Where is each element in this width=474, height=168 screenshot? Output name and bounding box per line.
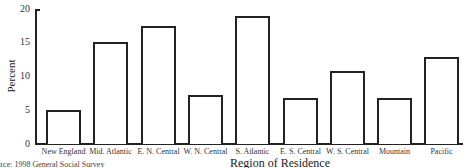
bar bbox=[141, 26, 176, 144]
bar bbox=[235, 16, 270, 144]
bar bbox=[46, 110, 81, 144]
x-tick-label: S. Atlantic bbox=[225, 147, 280, 156]
y-axis bbox=[35, 9, 37, 145]
y-tick-label-15: 15 bbox=[14, 37, 30, 47]
y-tick-label-0: 0 bbox=[14, 139, 30, 149]
bar bbox=[424, 57, 459, 144]
x-axis-label: Region of Residence bbox=[190, 156, 370, 168]
bar bbox=[188, 95, 223, 144]
bar bbox=[377, 98, 412, 144]
bar bbox=[283, 98, 318, 144]
x-tick-label: Pacific bbox=[414, 147, 469, 156]
source-note: Source: 1998 General Social Survey bbox=[0, 160, 104, 168]
y-tick-label-20: 20 bbox=[14, 4, 30, 14]
bar-chart: Percent 0 5 10 15 20 New EnglandMid. Atl… bbox=[0, 0, 474, 168]
y-tick-label-10: 10 bbox=[14, 71, 30, 81]
bar bbox=[93, 42, 128, 144]
bar bbox=[330, 71, 365, 144]
y-tick-label-5: 5 bbox=[14, 105, 30, 115]
x-tick-label: Mid. Atlantic bbox=[83, 147, 138, 156]
